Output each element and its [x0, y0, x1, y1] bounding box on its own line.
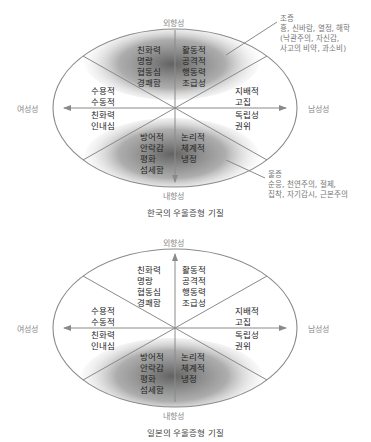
region-right-upper: 지배적 고집 [235, 306, 259, 328]
region-bottom-right: 논리적 체계적 냉정 [181, 352, 205, 385]
axis-label-bottom: 내향성 [163, 190, 184, 201]
region-left-lower: 친화력 인내심 [91, 330, 115, 352]
depressive-callout: 울증 순응, 천연주의, 절제, 집착, 자기감시, 근본주의 [268, 170, 348, 200]
korea-temperament-diagram: 외향성 내향성 여성성 남성성 친화력 명랑 협동심 경쾌함 활동적 공격적 행… [0, 0, 371, 222]
axis-label-bottom: 내향성 [163, 410, 184, 421]
axis-label-top: 외향성 [163, 237, 184, 248]
diagram-caption: 한국의 우울증형 기질 [0, 206, 371, 218]
axis-label-right: 남성성 [308, 323, 329, 334]
region-left-upper: 수용적 수동적 [91, 306, 115, 328]
region-left-upper: 수용적 수동적 [91, 86, 115, 108]
region-right-upper: 지배적 고집 [235, 86, 259, 108]
japan-temperament-diagram: 외향성 내향성 여성성 남성성 친화력 명랑 협동심 경쾌함 활동적 공격적 행… [0, 220, 371, 442]
region-bottom-right: 논리적 체계적 냉정 [181, 132, 205, 165]
region-top-left: 친화력 명랑 협동심 경쾌함 [137, 265, 161, 309]
axis-label-left: 여성성 [17, 323, 38, 334]
region-top-right: 활동적 공격적 행동력 조급성 [182, 265, 206, 309]
region-right-lower: 독립성 권위 [235, 330, 259, 352]
axis-label-left: 여성성 [17, 103, 38, 114]
axis-label-top: 외향성 [163, 17, 184, 28]
diagram-caption: 일본의 우울증형 기질 [0, 426, 371, 438]
region-right-lower: 독립성 권위 [235, 110, 259, 132]
region-bottom-left: 방어적 안락감 평화 섬세함 [140, 132, 164, 176]
region-top-left: 친화력 명랑 협동심 경쾌함 [137, 45, 161, 89]
region-top-right: 활동적 공격적 행동력 조급성 [182, 45, 206, 89]
axis-label-right: 남성성 [308, 103, 329, 114]
region-left-lower: 친화력 인내심 [91, 110, 115, 132]
region-bottom-left: 방어적 안락감 평화 섬세함 [140, 352, 164, 396]
manic-callout: 조증 흥, 신바람, 열정, 해학 (낙관주의, 자신감, 사고의 비약, 과소… [280, 14, 350, 54]
